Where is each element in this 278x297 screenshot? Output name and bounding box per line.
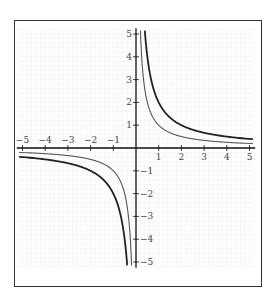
y-tick-label: −5 [140,257,154,267]
y-tick-label: −4 [140,234,154,244]
y-tick-label: −3 [140,211,154,221]
y-tick-label: −2 [140,189,153,199]
y-tick-label: −1 [140,166,153,176]
function-plot: −5−4−3−2−11234554321−1−2−3−4−5 [0,0,278,297]
x-tick-label: −1 [107,135,120,145]
y-tick-label: 2 [126,97,132,107]
y-tick-label: 4 [126,52,132,62]
x-tick-label: 1 [156,152,162,162]
y-tick-label: 5 [126,29,132,39]
x-tick-label: 5 [247,152,253,162]
x-tick-label: −3 [61,135,75,145]
curve-2-over-x [145,31,253,140]
x-tick-label: 4 [224,152,230,162]
x-tick-label: 3 [201,152,207,162]
x-tick-label: −4 [39,135,53,145]
x-tick-label: −5 [16,135,30,145]
axes [17,28,255,267]
curve-2-over-x [19,157,127,266]
y-tick-label: 3 [126,75,132,85]
y-tick-label: 1 [126,120,132,130]
x-tick-label: 2 [179,152,185,162]
x-tick-label: −2 [84,135,97,145]
